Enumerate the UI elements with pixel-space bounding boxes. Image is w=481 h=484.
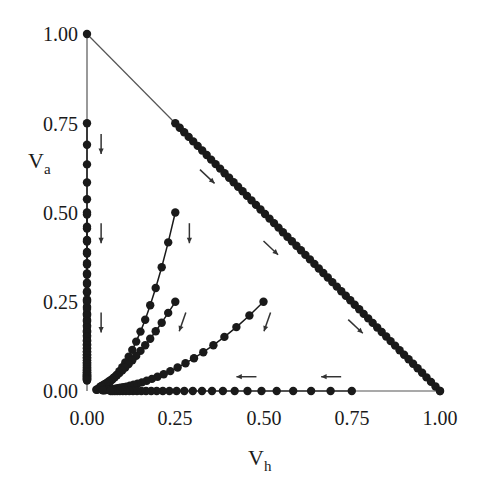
data-point [132,337,140,345]
data-point [152,327,160,335]
direction-arrow-icon [187,223,192,243]
data-point [326,387,334,395]
y-axis-label: Va [28,148,51,177]
data-point [436,387,444,395]
data-point [83,248,91,256]
data-point [199,348,207,356]
data-point [231,387,239,395]
data-point [141,316,149,324]
data-point [83,119,91,127]
x-tick-3: 0.75 [335,407,370,429]
data-point [83,160,91,168]
data-point [198,387,206,395]
direction-arrow-icon [179,312,186,331]
data-point [190,354,198,362]
data-point [83,178,91,186]
data-point [181,359,189,367]
x-axis-ticks: 0.00 0.25 0.50 0.75 1.00 [70,407,458,429]
data-point [83,141,91,149]
x-tick-4: 1.00 [423,407,458,429]
data-point [83,30,91,38]
data-point [245,311,253,319]
direction-arrow-icon [99,312,104,332]
data-point [172,387,180,395]
data-point [173,363,181,371]
data-point [219,387,227,395]
data-point [180,387,188,395]
data-point [307,387,315,395]
data-point [158,319,166,327]
y-tick-0: 0.00 [43,380,78,402]
data-point [348,387,356,395]
data-point [83,279,91,287]
y-tick-1: 0.25 [43,291,78,313]
y-tick-2: 0.50 [43,202,78,224]
data-point [164,238,172,246]
data-point [164,309,172,317]
data-point [208,387,216,395]
data-point [171,208,179,216]
data-point [259,298,267,306]
direction-arrow-icon [99,223,104,243]
direction-arrow-icon [348,320,363,334]
data-point [171,298,179,306]
direction-arrow-icon [99,134,104,154]
direction-arrow-icon [236,374,256,379]
data-point [83,223,91,231]
x-tick-2: 0.50 [247,407,282,429]
direction-arrow-icon [264,241,279,255]
phase-portrait-chart: 0.00 0.25 0.50 0.75 1.00 0.00 0.25 0.50 … [0,0,481,484]
data-point [189,387,197,395]
data-point [136,327,144,335]
direction-arrow-icon [200,170,215,184]
data-point [83,236,91,244]
data-point [257,387,265,395]
y-tick-4: 1.00 [43,23,78,45]
data-point [83,287,91,295]
data-point [83,208,91,216]
data-point [220,333,228,341]
trajectory-line [96,213,175,390]
y-tick-3: 0.75 [43,113,78,135]
data-point [83,259,91,267]
data-point [232,323,240,331]
data-point [243,387,251,395]
data-point [83,269,91,277]
direction-arrow-icon [263,312,270,331]
data-point [83,195,91,203]
data-point [158,263,166,271]
data-point [289,387,297,395]
data-point [152,284,160,292]
x-tick-1: 0.25 [158,407,193,429]
data-point [83,376,91,384]
data-point [146,301,154,309]
direction-arrow-icon [321,374,341,379]
data-point [273,387,281,395]
data-point [106,387,114,395]
data-point [99,386,107,394]
y-axis-ticks: 0.00 0.25 0.50 0.75 1.00 [43,23,78,402]
x-axis-label: Vh [248,445,272,474]
data-point [209,341,217,349]
x-tick-0: 0.00 [70,407,105,429]
